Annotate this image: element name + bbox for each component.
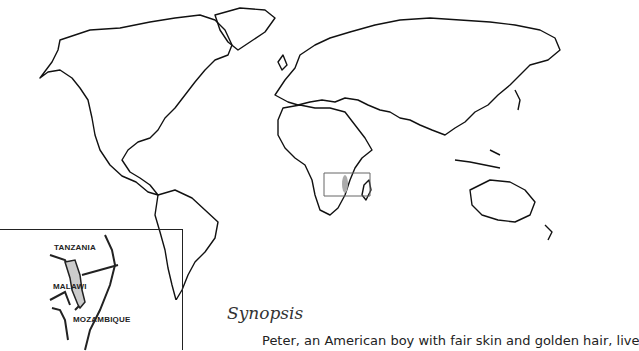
synopsis-title: Synopsis (227, 303, 303, 323)
africa-outline (278, 105, 372, 215)
north-america-outline (40, 15, 232, 195)
eurasia-outline (275, 18, 560, 135)
synopsis-text: Peter, an American boy with fair skin an… (262, 333, 639, 348)
mozambique-label: MOZAMBIQUE (73, 315, 131, 324)
inset-map: TANZANIA MALAWI MOZAMBIQUE (0, 229, 183, 350)
malawi-highlight (342, 175, 348, 193)
indonesia-outline (455, 150, 500, 168)
malawi-label: MALAWI (53, 282, 87, 291)
australia-outline (470, 180, 535, 222)
uk-outline (278, 55, 287, 70)
japan-outline (515, 90, 520, 110)
new-zealand-outline (545, 225, 552, 240)
tanzania-label: TANZANIA (54, 243, 96, 252)
